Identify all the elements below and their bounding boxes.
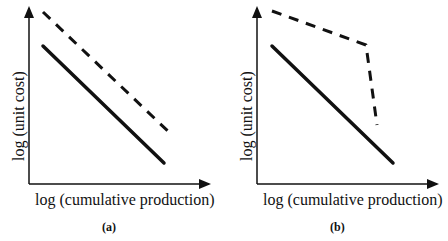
panel-b-x-label: log (cumulative production) <box>263 191 443 209</box>
panel-a-x-label: log (cumulative production) <box>35 191 215 209</box>
panel-b-axes <box>257 8 437 184</box>
dashed-cost-curve <box>272 11 377 125</box>
panel-a-axes <box>29 8 209 184</box>
panel-b-curves <box>272 11 393 163</box>
panel-a-caption: (a) <box>102 220 116 235</box>
panel-a-curves <box>43 12 172 163</box>
solid-cost-curve <box>43 46 164 163</box>
solid-cost-curve <box>272 46 393 163</box>
dashed-cost-curve <box>43 12 172 135</box>
panel-a-y-label: log (unit cost) <box>10 71 28 161</box>
panel-b-caption: (b) <box>330 220 345 235</box>
panel-b-y-label: log (unit cost) <box>238 71 256 161</box>
